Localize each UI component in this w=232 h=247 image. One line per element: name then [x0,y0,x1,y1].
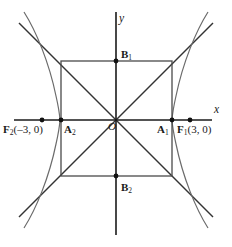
vertex-right-label: A1 [157,124,169,136]
point-A2 [59,118,64,123]
focus-right-letter: F [177,123,184,135]
covertex-bottom-label: B2 [121,182,132,194]
y-axis-label: y [119,13,124,25]
focus-left-label: F2(–3, 0) [3,124,43,136]
point-A1 [170,118,175,123]
vertex-right-subscript: 1 [165,128,169,137]
vertex-right-letter: A [157,123,165,135]
point-F1 [188,118,193,123]
focus-right-label: F1(3, 0) [177,124,211,136]
covertex-bottom-subscript: 2 [128,186,132,195]
vertex-left-subscript: 2 [72,128,76,137]
point-B1 [114,59,119,64]
vertex-left-letter: A [64,123,72,135]
point-B2 [114,174,119,179]
focus-left-coords: (–3, 0) [13,123,42,135]
covertex-top-subscript: 1 [128,53,132,62]
covertex-top-label: B1 [121,49,132,61]
point-F2 [40,118,45,123]
x-axis-label: x [214,104,219,116]
focus-right-coords: (3, 0) [187,123,211,135]
hyperbola-figure: y x O F2(–3, 0) A2 A1 F1(3, 0) B1 B2 [0,0,232,247]
origin-label: O [108,121,116,132]
vertex-left-label: A2 [64,124,76,136]
focus-left-letter: F [3,123,10,135]
